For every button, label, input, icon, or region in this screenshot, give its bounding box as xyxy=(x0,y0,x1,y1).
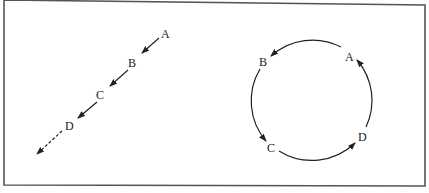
node-label-c: C xyxy=(267,141,275,155)
node-label-d: D xyxy=(65,119,74,133)
node-label-b: B xyxy=(259,55,267,69)
node-label-a: A xyxy=(161,27,170,41)
node-label-b: B xyxy=(128,56,136,70)
linear-chain: A B C D xyxy=(37,27,170,154)
cyclic-chain: A B C D xyxy=(251,40,372,160)
node-label-c: C xyxy=(96,88,104,102)
node-label-a: A xyxy=(345,50,354,64)
frame-border xyxy=(4,0,425,186)
diagram-figure: A B C D A B C D xyxy=(0,0,429,193)
node-label-d: D xyxy=(358,130,367,144)
